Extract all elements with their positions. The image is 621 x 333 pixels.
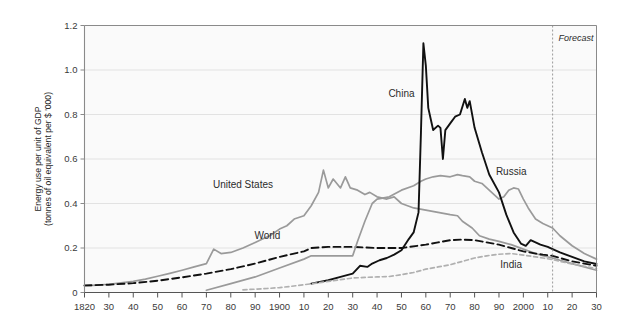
annotation-forecast: Forecast (559, 33, 595, 43)
x-tick-label: 60 (421, 301, 432, 312)
y-tick-label: 0 (72, 287, 77, 298)
x-tick-label: 40 (128, 301, 139, 312)
x-tick-label: 40 (372, 301, 383, 312)
x-tick-label: 30 (104, 301, 115, 312)
figure-container: 00.20.40.60.81.01.2182030405060708090190… (0, 0, 621, 333)
x-tick-label: 20 (323, 301, 334, 312)
x-tick-label: 30 (347, 301, 358, 312)
x-tick-label: 50 (396, 301, 407, 312)
y-axis-title-line2: (tonnes of oil equivalent per $ '000) (43, 92, 53, 226)
y-tick-label: 0.4 (64, 198, 77, 209)
y-axis-title-line1: Energy use per unit of GDP (33, 106, 43, 211)
x-tick-label: 30 (591, 301, 602, 312)
x-tick-label: 10 (299, 301, 310, 312)
y-tick-label: 1.0 (64, 64, 77, 75)
y-tick-label: 0.6 (64, 153, 77, 164)
x-tick-label: 80 (469, 301, 480, 312)
energy-intensity-line-chart: 00.20.40.60.81.01.2182030405060708090190… (0, 0, 621, 333)
series-label-world: World (254, 230, 280, 241)
series-label-india: India (500, 259, 522, 270)
x-tick-label: 10 (542, 301, 553, 312)
series-label-russia: Russia (496, 166, 527, 177)
x-tick-label: 20 (567, 301, 578, 312)
x-tick-label: 90 (250, 301, 261, 312)
x-tick-label: 90 (494, 301, 505, 312)
y-tick-label: 0.8 (64, 109, 77, 120)
x-tick-label: 1900 (269, 301, 290, 312)
x-tick-label: 50 (152, 301, 163, 312)
x-tick-label: 70 (201, 301, 212, 312)
series-label-united-states: United States (213, 179, 273, 190)
x-tick-label: 80 (225, 301, 236, 312)
chart-plot-area: 00.20.40.60.81.01.2182030405060708090190… (0, 0, 621, 333)
series-label-china: China (388, 88, 415, 99)
x-tick-label: 2000 (513, 301, 534, 312)
axis-titles: Energy use per unit of GDP(tonnes of oil… (33, 92, 53, 226)
y-tick-label: 1.2 (64, 20, 77, 31)
x-tick-label: 1820 (74, 301, 95, 312)
x-tick-label: 60 (177, 301, 188, 312)
x-tick-label: 70 (445, 301, 456, 312)
y-tick-label: 0.2 (64, 242, 77, 253)
